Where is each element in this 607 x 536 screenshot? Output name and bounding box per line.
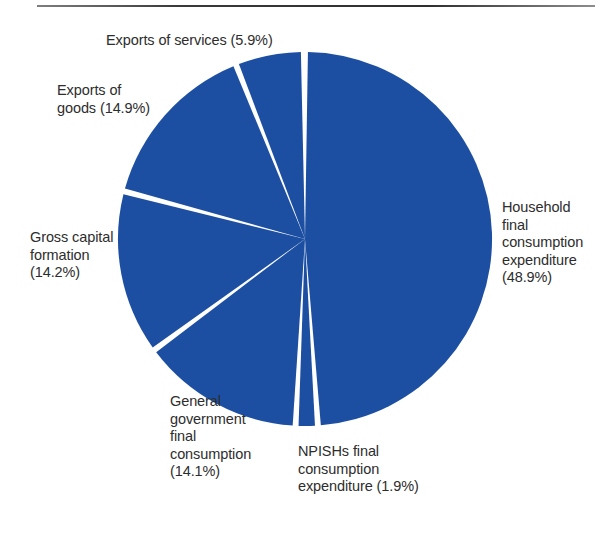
pie-slice-group [118, 52, 492, 426]
pie-label-general-government-final-consumption: General government final consumption (14… [170, 393, 251, 481]
pie-label-household-final-consumption-expenditure: Household final consumption expenditure … [502, 199, 583, 287]
pie-label-npishs-final-consumption-expenditure: NPISHs final consumption expenditure (1.… [298, 443, 419, 496]
chart-page: Exports of services (5.9%) Exports of go… [0, 0, 607, 536]
pie-label-exports-of-services: Exports of services (5.9%) [106, 32, 273, 50]
pie-label-gross-capital-formation: Gross capital formation (14.2%) [30, 229, 113, 282]
pie-label-exports-of-goods: Exports of goods (14.9%) [57, 82, 150, 117]
pie-slice-household [305, 52, 492, 425]
